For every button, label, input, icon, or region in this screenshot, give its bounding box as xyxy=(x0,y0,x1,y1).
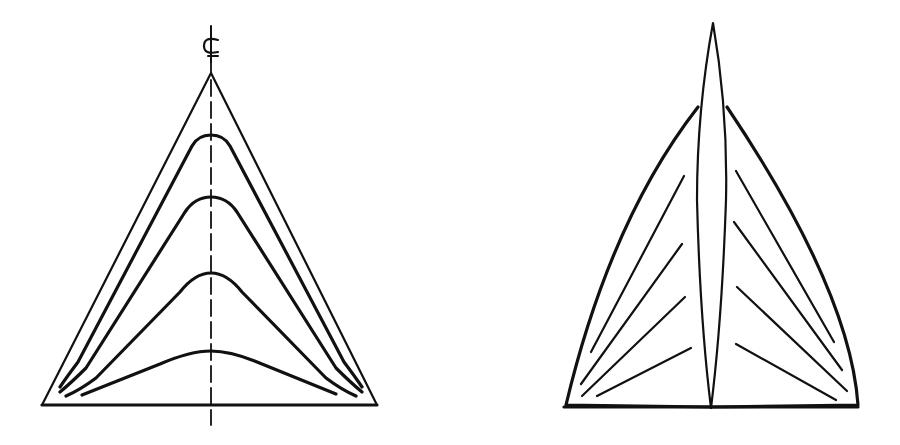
left-figure xyxy=(42,26,377,425)
left-sail-outline xyxy=(566,107,711,407)
centerline-symbol-icon xyxy=(204,26,218,62)
mast-lens xyxy=(697,23,726,408)
right-batten-4 xyxy=(736,344,836,400)
right-figure xyxy=(564,23,858,408)
left-batten-4 xyxy=(597,348,691,396)
right-batten-1 xyxy=(736,171,834,342)
right-batten-2 xyxy=(734,222,842,370)
diagram-canvas xyxy=(0,0,900,445)
contour-curve-4 xyxy=(82,351,336,395)
